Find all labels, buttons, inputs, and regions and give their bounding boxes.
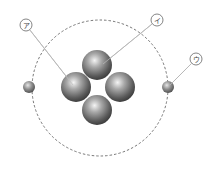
leader-line-overlay-u [170,64,191,85]
orbit-circle [32,20,168,156]
label-text: イ [154,17,161,25]
electron-sphere [23,81,35,93]
label-i: イ [151,14,163,26]
atom-diagram: アイウ [0,0,215,171]
label-u: ウ [190,53,202,65]
nucleon-sphere [61,72,91,102]
nucleon-sphere [105,72,135,102]
label-a: ア [20,19,32,31]
leader-line-overlay-a [30,30,73,85]
nucleon-sphere [82,95,112,125]
labels: アイウ [20,14,202,85]
label-text: ア [23,22,30,30]
nucleus [61,50,135,125]
leader-line-overlay-i [103,24,152,64]
label-text: ウ [193,56,200,64]
nucleon-sphere [82,50,112,80]
electrons [23,81,174,93]
